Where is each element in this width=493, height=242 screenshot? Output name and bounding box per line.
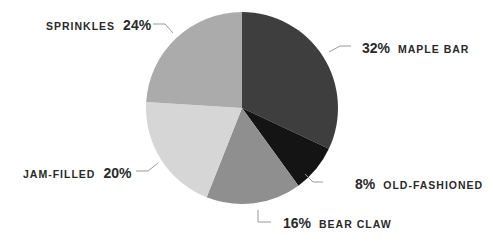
leader-line-maple-bar: [329, 46, 351, 52]
slice-percent: 20%: [103, 165, 131, 181]
slice-percent: 32%: [362, 40, 390, 56]
slice-percent: 24%: [123, 17, 151, 33]
slice-percent: 8%: [355, 176, 375, 192]
label-bear-claw: 16%BEAR CLAW: [283, 215, 392, 231]
slice-name: SPRINKLES: [46, 20, 115, 32]
label-maple-bar: 32%MAPLE BAR: [362, 40, 469, 56]
label-jam-filled: JAM-FILLED20%: [23, 165, 131, 181]
label-sprinkles: SPRINKLES24%: [46, 17, 151, 33]
label-old-fashioned: 8%OLD-FASHIONED: [355, 176, 483, 192]
pie-slice-sprinkles: [146, 12, 242, 108]
pie-slices: [146, 12, 338, 204]
pie-chart: [0, 0, 493, 242]
leader-line-jam-filled: [136, 163, 158, 171]
leader-line-bear-claw: [258, 210, 271, 222]
slice-name: JAM-FILLED: [23, 168, 95, 180]
leader-line-sprinkles: [153, 24, 173, 33]
slice-name: MAPLE BAR: [398, 43, 469, 55]
slice-name: OLD-FASHIONED: [383, 179, 483, 191]
slice-name: BEAR CLAW: [319, 218, 392, 230]
slice-percent: 16%: [283, 215, 311, 231]
